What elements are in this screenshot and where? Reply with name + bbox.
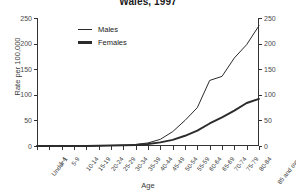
x-category-label: 75-79 [245,156,260,172]
x-category-label: 5-9 [70,156,80,167]
y-tick-label: 150 [20,66,32,73]
y-tick-label: 250 [20,15,32,22]
y-tick [259,44,262,45]
legend: Males Females [78,23,127,49]
x-tick [148,146,149,150]
y-tick [259,120,262,121]
x-axis-title: Age [0,181,296,190]
y-tick-label: 250 [264,15,276,22]
x-category-label: 45-49 [171,156,186,172]
x-tick [111,146,112,150]
legend-item-males: Males [78,23,127,36]
y-tick [259,69,262,70]
series-line-males [37,26,259,146]
x-category-label: 65-69 [221,156,236,172]
y-tick-label: 200 [20,40,32,47]
y-tick-label: 0 [264,143,268,150]
x-category-label: 15-19 [97,156,112,172]
y-tick [259,95,262,96]
chart-title: Wales, 1997 [0,0,296,7]
chart-container: Wales, 1997 Rate per 100,000 05010015020… [0,0,296,191]
x-tick [222,146,223,150]
y-tick-label: 150 [264,66,276,73]
y-tick-label: 50 [264,117,272,124]
x-tick [197,146,198,150]
legend-swatch-males-icon [78,29,92,30]
legend-label-males: Males [98,26,118,34]
legend-swatch-females-icon [78,41,92,44]
y-tick [259,18,262,19]
x-tick [173,146,174,150]
x-tick [259,146,260,150]
x-category-label: 20-24 [110,156,125,172]
legend-item-females: Females [78,36,127,49]
x-tick [210,146,211,150]
x-tick [123,146,124,150]
y-tick-label: 0 [28,143,32,150]
x-category-label: 60-64 [208,156,223,172]
y-tick-label: 200 [264,40,276,47]
plot-area: 050100150200250 050100150200250 Under 11… [37,18,259,146]
series-line-females [37,99,259,146]
y-tick-label: 50 [24,117,32,124]
x-tick [160,146,161,150]
x-category-label: 35-39 [147,156,162,172]
x-tick [136,146,137,150]
y-tick-label: 100 [264,91,276,98]
x-tick [234,146,235,150]
x-category-label: 30-34 [134,156,149,172]
legend-label-females: Females [98,39,127,47]
x-category-label: 50-54 [184,156,199,172]
x-tick [185,146,186,150]
y-tick-label: 100 [20,91,32,98]
x-category-label: 80-84 [258,156,273,172]
series-lines [37,18,259,146]
x-tick [247,146,248,150]
